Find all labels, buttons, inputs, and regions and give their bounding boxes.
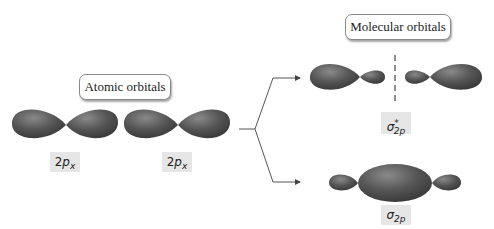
label-p: p <box>62 155 70 169</box>
label-sub: x <box>70 161 75 171</box>
label-sub: 2p <box>394 126 405 136</box>
bonding-orbital <box>329 164 461 202</box>
atomic-orbital-label-1: 2px <box>50 152 80 172</box>
atomic-orbital-2px-2 <box>124 110 230 139</box>
bonding-label: σ2p <box>381 205 411 225</box>
atomic-orbitals-title: Atomic orbitals <box>79 74 171 100</box>
label-p: p <box>174 155 182 169</box>
branch-arrows <box>239 78 300 182</box>
molecular-orbitals-title: Molecular orbitals <box>345 14 451 40</box>
sigma-symbol: σ <box>386 208 394 222</box>
antibonding-label: σ*2p <box>381 112 411 134</box>
label-sub: 2p <box>394 214 405 224</box>
label-sub: x <box>182 161 187 171</box>
atomic-orbital-label-2: 2px <box>162 152 192 172</box>
atomic-orbital-2px-1 <box>12 110 118 139</box>
antibonding-orbital <box>310 55 482 105</box>
